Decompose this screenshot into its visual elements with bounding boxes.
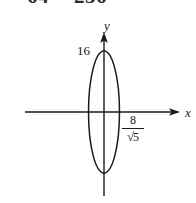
x-intercept-fraction-label: 8 √5: [120, 114, 146, 144]
fraction-numerator: 8: [130, 114, 136, 128]
x-axis-label: x: [185, 106, 191, 119]
y-intercept-label: 16: [77, 44, 90, 57]
radicand: 5: [133, 130, 139, 144]
cropped-header-left-number: 64: [27, 0, 49, 7]
y-axis-label: y: [104, 19, 110, 32]
ellipse-coordinate-diagram: [0, 0, 196, 203]
fraction-denominator: √5: [127, 129, 139, 144]
cropped-header-right-number: 256: [74, 0, 107, 7]
